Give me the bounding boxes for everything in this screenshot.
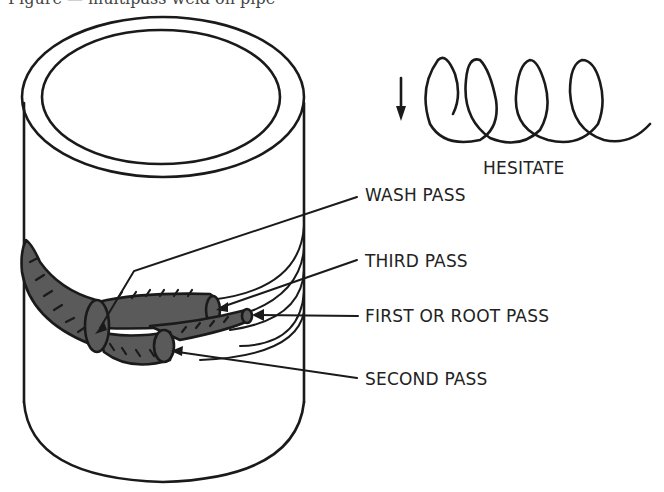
third-pass-label: THIRD PASS xyxy=(364,251,468,271)
root-pass-label: FIRST OR ROOT PASS xyxy=(365,306,549,326)
down-arrow-icon xyxy=(396,106,406,121)
pipe xyxy=(22,17,304,482)
cut-off-caption: Figure — multipass weld on pipe xyxy=(8,0,275,8)
hesitate-label: HESITATE xyxy=(483,158,564,178)
second-pass-label: SECOND PASS xyxy=(365,369,488,389)
pipe-weld-diagram: Figure — multipass weld on pipe xyxy=(0,0,664,492)
hesitate-weave-diagram: HESITATE xyxy=(396,58,650,178)
wash-pass-label: WASH PASS xyxy=(365,185,466,205)
weld-beads xyxy=(22,240,253,365)
